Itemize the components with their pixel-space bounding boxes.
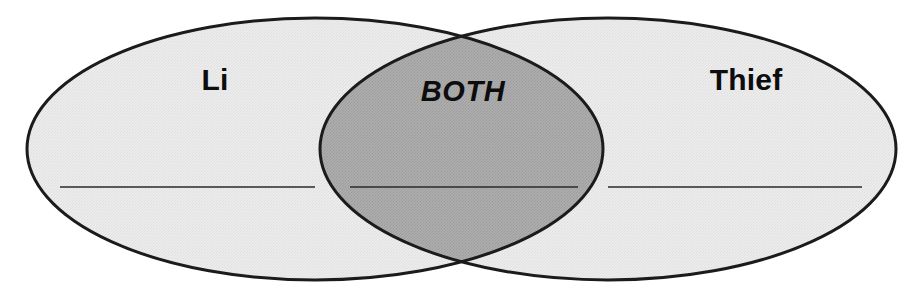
venn-label-left: Li (201, 63, 228, 96)
venn-diagram-canvas: Li BOTH Thief (0, 0, 913, 291)
venn-label-right: Thief (710, 63, 783, 96)
venn-diagram-svg: Li BOTH Thief (0, 0, 913, 291)
venn-label-intersection: BOTH (421, 75, 506, 107)
